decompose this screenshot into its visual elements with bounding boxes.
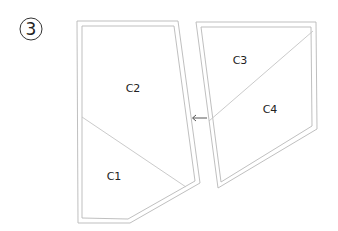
right-polygon-outer <box>196 22 317 188</box>
left-divider-line <box>82 117 186 187</box>
right-polygon-inner <box>201 27 312 182</box>
region-label-c2: C2 <box>126 82 141 95</box>
right-divider-line <box>209 31 313 121</box>
step-badge: 3 <box>20 18 42 40</box>
region-label-c3: C3 <box>233 54 248 67</box>
step-number: 3 <box>26 19 37 39</box>
right-polygon: C3 C4 <box>196 22 317 188</box>
region-label-c4: C4 <box>263 103 278 116</box>
left-polygon: C2 C1 <box>77 21 200 223</box>
left-polygon-inner <box>82 26 195 219</box>
region-label-c1: C1 <box>107 170 122 183</box>
arrow-left-icon <box>193 115 208 121</box>
diagram-canvas: 3 C2 C1 C3 C4 <box>0 0 338 231</box>
left-polygon-outer <box>77 21 200 223</box>
